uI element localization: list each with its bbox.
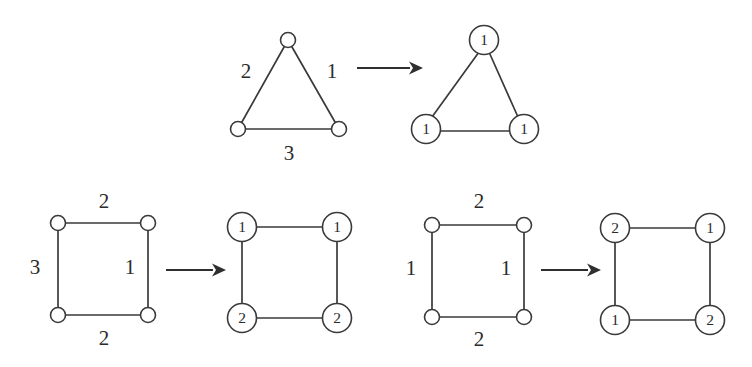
square-right-row-arrow <box>541 264 601 277</box>
square-left-source-graph: 2 3 1 2 <box>30 189 156 350</box>
triangle-edge-label-left: 2 <box>241 59 252 83</box>
graph-labeling-figure: 2 1 3 1 1 1 <box>0 0 752 367</box>
triangle-edge-label-right: 1 <box>327 59 338 83</box>
square-right-result-label-top-left: 2 <box>611 219 619 236</box>
square-left-node-top-left <box>51 216 66 231</box>
triangle-row-arrow <box>357 62 423 75</box>
square-left-edge-label-left: 3 <box>30 255 41 279</box>
triangle-result-edge-right <box>489 52 518 117</box>
square-right-edge-label-top: 2 <box>474 189 485 213</box>
triangle-node-bottom-left <box>231 122 246 137</box>
triangle-result-edge-left <box>432 52 479 117</box>
square-left-result-label-top-right: 1 <box>333 218 341 235</box>
square-right-source-graph: 2 1 1 2 <box>406 189 532 351</box>
triangle-result-label-bottom-left: 1 <box>422 120 430 137</box>
square-right-result-label-top-right: 1 <box>706 219 714 236</box>
square-right-node-bottom-left <box>425 310 440 325</box>
arrow-head <box>587 264 601 277</box>
triangle-result-label-apex: 1 <box>480 31 488 48</box>
square-left-node-bottom-left <box>51 308 66 323</box>
triangle-source-graph: 2 1 3 <box>231 33 347 165</box>
triangle-node-apex <box>281 33 296 48</box>
square-left-result-graph: 1 1 2 2 <box>228 213 352 333</box>
figure-root: 2 1 3 1 1 1 <box>0 0 752 367</box>
square-right-edge-label-right: 1 <box>501 256 512 280</box>
square-right-node-top-right <box>517 218 532 233</box>
arrow-head <box>409 62 423 75</box>
square-right-node-top-left <box>425 218 440 233</box>
square-right-result-graph: 2 1 1 2 <box>601 214 725 335</box>
square-left-row-arrow <box>166 264 226 277</box>
square-right-result-label-bottom-left: 1 <box>611 311 619 328</box>
square-right-result-label-bottom-right: 2 <box>706 311 714 328</box>
square-left-node-bottom-right <box>141 308 156 323</box>
triangle-edge-left <box>238 40 288 129</box>
square-right-edge-label-left: 1 <box>406 256 417 280</box>
triangle-edge-right <box>288 40 339 129</box>
triangle-edge-label-bottom: 3 <box>284 141 295 165</box>
square-left-edge-label-bottom: 2 <box>99 326 110 350</box>
square-right-node-bottom-right <box>517 310 532 325</box>
square-left-node-top-right <box>141 216 156 231</box>
square-right-edge-label-bottom: 2 <box>474 327 485 351</box>
triangle-result-label-bottom-right: 1 <box>520 120 528 137</box>
square-left-result-label-bottom-right: 2 <box>333 309 341 326</box>
square-left-result-label-top-left: 1 <box>238 218 246 235</box>
triangle-node-bottom-right <box>332 122 347 137</box>
square-left-edge-label-right: 1 <box>125 255 136 279</box>
arrow-head <box>212 264 226 277</box>
square-left-edge-label-top: 2 <box>99 189 110 213</box>
square-left-result-label-bottom-left: 2 <box>238 309 246 326</box>
triangle-result-graph: 1 1 1 <box>412 26 539 144</box>
